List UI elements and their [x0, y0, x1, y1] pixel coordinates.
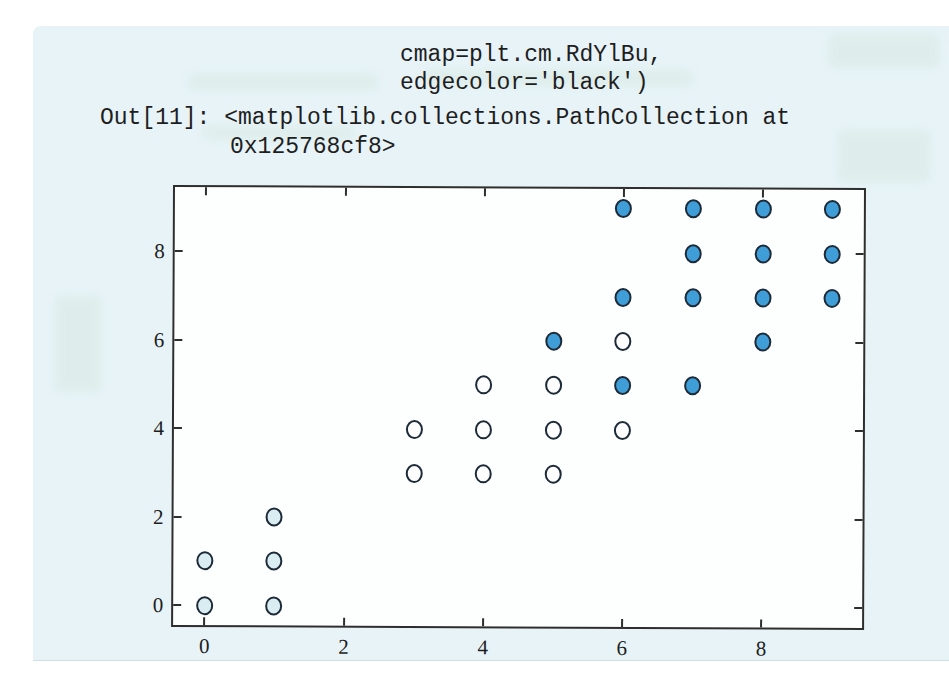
x-tick-mark-top: [623, 189, 625, 197]
page-bleedthrough-smudge: [828, 34, 940, 68]
y-tick-label: 0: [123, 592, 163, 618]
y-tick-mark-right: [855, 430, 863, 432]
y-tick-label: 6: [124, 326, 164, 352]
code-argument-line-2: edgecolor='black'): [400, 70, 648, 96]
x-tick-mark: [621, 619, 623, 627]
scatter-point-mid-cluster-white: [545, 420, 562, 439]
y-tick-mark-right: [856, 253, 864, 255]
scatter-point-high-cluster-blue: [545, 332, 562, 351]
y-tick-mark: [174, 339, 182, 341]
x-tick-mark: [343, 618, 345, 626]
x-tick-label: 4: [458, 634, 508, 660]
scatter-point-high-cluster-blue: [754, 333, 771, 352]
scatter-point-mid-cluster-white: [475, 464, 492, 483]
scatter-point-mid-cluster-white: [475, 420, 492, 439]
scatter-point-mid-cluster-white: [614, 421, 631, 440]
x-tick-mark-top: [484, 188, 486, 196]
y-tick-mark-right: [855, 342, 863, 344]
scatter-point-mid-cluster-white: [405, 420, 422, 439]
x-tick-label: 6: [597, 635, 647, 661]
x-tick-label: 2: [318, 634, 368, 660]
y-tick-mark-right: [854, 607, 862, 609]
y-tick-mark-right: [855, 519, 863, 521]
y-tick-label: 2: [123, 503, 163, 529]
y-tick-label: 4: [124, 415, 164, 441]
scatter-point-high-cluster-blue: [754, 200, 771, 219]
x-tick-mark: [760, 620, 762, 628]
x-tick-mark: [203, 617, 205, 625]
scatter-figure: 0246802468: [171, 185, 866, 630]
out-result-continuation: 0x125768cf8>: [230, 134, 396, 160]
x-tick-mark-top: [762, 190, 764, 198]
y-tick-label: 8: [125, 238, 165, 264]
scatter-point-high-cluster-blue: [685, 244, 702, 263]
scatter-point-mid-cluster-white: [405, 464, 422, 483]
x-tick-mark-top: [205, 187, 207, 195]
y-tick-mark: [175, 250, 183, 252]
scatter-point-high-cluster-blue: [754, 244, 771, 263]
scatter-point-high-cluster-blue: [754, 288, 771, 307]
y-tick-mark: [173, 604, 181, 606]
y-tick-mark: [174, 516, 182, 518]
scatter-point-low-cluster-pale-blue: [266, 596, 283, 615]
y-tick-mark: [174, 427, 182, 429]
page-bleedthrough-smudge: [55, 296, 101, 392]
scatter-point-mid-cluster-white: [544, 464, 561, 483]
page-bleedthrough-smudge: [188, 74, 378, 90]
scatter-point-low-cluster-pale-blue: [196, 596, 213, 615]
x-tick-label: 8: [736, 635, 786, 661]
out-prompt-and-result: Out[11]: <matplotlib.collections.PathCol…: [100, 105, 790, 131]
scanned-book-page: cmap=plt.cm.RdYlBu, edgecolor='black') O…: [0, 0, 949, 682]
code-argument-line-1: cmap=plt.cm.RdYlBu,: [400, 42, 662, 68]
x-tick-mark: [482, 618, 484, 626]
scatter-point-high-cluster-blue: [824, 244, 841, 263]
scatter-point-high-cluster-blue: [824, 289, 841, 308]
x-tick-label: 0: [179, 633, 229, 659]
x-tick-mark-top: [344, 188, 346, 196]
page-bleedthrough-smudge: [838, 130, 930, 182]
scatter-point-high-cluster-blue: [684, 288, 701, 307]
